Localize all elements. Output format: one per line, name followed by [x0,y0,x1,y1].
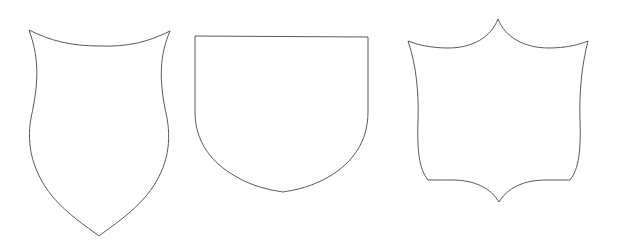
drawing-canvas [0,0,630,243]
shield-outlines-svg [0,0,630,243]
